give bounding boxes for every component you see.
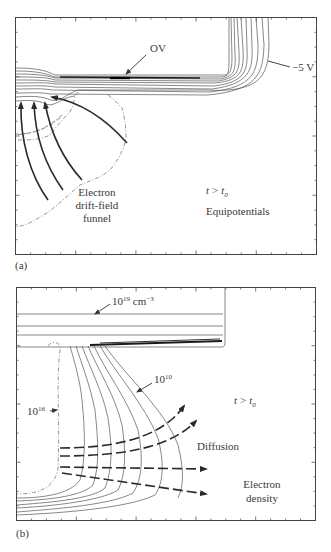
equipotential-line bbox=[16, 17, 232, 77]
density-contour-1e16 bbox=[17, 343, 60, 494]
funnel-label-line2: drift-field bbox=[76, 199, 119, 211]
funnel-arrow bbox=[52, 97, 127, 143]
label-1e19-cm3: 1019 cm−3 bbox=[112, 295, 154, 307]
panel-a-label: (a) bbox=[15, 259, 28, 272]
funnel-label-line1: Electron bbox=[78, 186, 116, 198]
density-contour bbox=[17, 346, 111, 505]
density-contour bbox=[17, 346, 98, 501]
density-contour bbox=[17, 346, 84, 498]
equipotential-line bbox=[16, 17, 235, 79]
minus5-leader bbox=[268, 61, 290, 67]
drift-field-arrows bbox=[21, 97, 127, 200]
panel-b-label: (b) bbox=[16, 527, 29, 540]
label-1e19-leader bbox=[95, 304, 110, 314]
minus5-volt-label: −5 V bbox=[292, 61, 314, 73]
equipotential-contours bbox=[16, 17, 269, 105]
equipotential-line bbox=[16, 17, 239, 81]
time-condition-b: t > t0 bbox=[234, 395, 256, 409]
diffusion-arrows bbox=[60, 406, 206, 494]
equipotential-line bbox=[16, 17, 229, 75]
diffusion-label: Diffusion bbox=[197, 440, 239, 452]
panel-a-frame bbox=[16, 18, 317, 255]
label-1e10: 1010 bbox=[154, 373, 173, 385]
label-1e16-leader bbox=[50, 410, 57, 411]
funnel-label-line3: funnel bbox=[83, 212, 111, 224]
label-1e16: 1016 bbox=[27, 405, 46, 417]
time-condition-a: t > t0 bbox=[206, 185, 228, 199]
zero-volt-leader bbox=[126, 55, 146, 74]
panel-a: OV −5 V Electron drift-field funnel t > … bbox=[15, 17, 317, 272]
panel-a-ticks bbox=[16, 18, 317, 255]
diffusion-arrow bbox=[60, 467, 206, 469]
electron-density-label-line1: Electron bbox=[243, 478, 281, 490]
density-contour-1e10 bbox=[105, 346, 183, 498]
electron-density-label-line2: density bbox=[246, 492, 278, 504]
panel-b: 1019 cm−3 1016 1010 t > t0 Diffusion Ele… bbox=[16, 287, 316, 540]
density-contour bbox=[17, 346, 162, 515]
density-contour bbox=[17, 346, 125, 508]
figure-canvas: OV −5 V Electron drift-field funnel t > … bbox=[0, 0, 331, 552]
funnel-contour bbox=[16, 92, 78, 140]
zero-volt-label: OV bbox=[150, 42, 166, 54]
equipotentials-title: Equipotentials bbox=[206, 205, 270, 217]
